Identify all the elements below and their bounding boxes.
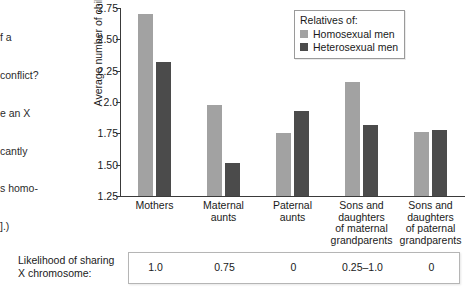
bottom-table-label-line2: X chromosome: <box>18 267 122 280</box>
x-axis-category-label: Mothers <box>120 200 189 212</box>
bottom-table-label: Likelihood of sharing X chromosome: <box>18 254 122 279</box>
x-axis-category-label: Sons anddaughtersof maternalgrandparents <box>327 200 396 246</box>
plot-area: 1.251.501.752.02.252.502.75 MothersMater… <box>120 8 465 196</box>
margin-text-line: ].) <box>0 220 58 233</box>
x-axis-category-label: Sons anddaughtersof paternalgrandparents <box>396 200 465 246</box>
bar <box>414 132 429 196</box>
bar-chart: Average number of children 1.251.501.752… <box>62 0 471 246</box>
bar <box>138 14 153 196</box>
y-axis-tick-mark <box>116 39 121 40</box>
y-axis-tick-mark <box>116 196 121 197</box>
y-axis-tick-label: 2.75 <box>68 2 118 14</box>
x-chromosome-likelihood-row: Likelihood of sharing X chromosome: 1.00… <box>0 252 471 288</box>
legend-item-label: Homosexual men <box>313 28 395 41</box>
margin-text-line: e an X <box>0 107 58 120</box>
y-axis-tick-label: 2.0 <box>68 96 118 108</box>
x-axis-category-label: Paternalaunts <box>258 200 327 223</box>
y-axis-tick-label: 1.50 <box>68 159 118 171</box>
y-axis-tick-label: 2.25 <box>68 65 118 77</box>
margin-text-line: f a <box>0 31 58 44</box>
x-axis-line <box>120 196 465 197</box>
margin-text-fragment: f a conflict? e an X cantly s homo- ].) <box>0 6 58 245</box>
x-axis-category-label: Maternalaunts <box>189 200 258 223</box>
bar <box>363 125 378 196</box>
legend-item-homosexual-men: Homosexual men <box>300 28 398 41</box>
y-axis-tick-mark <box>116 71 121 72</box>
bar <box>276 133 291 196</box>
margin-text-line: cantly <box>0 145 58 158</box>
legend-item-heterosexual-men: Heterosexual men <box>300 41 398 54</box>
chart-legend: Relatives of: Homosexual men Heterosexua… <box>294 10 405 59</box>
legend-item-label: Heterosexual men <box>313 41 398 54</box>
bottom-table-label-line1: Likelihood of sharing <box>18 254 122 267</box>
y-axis-tick-mark <box>116 102 121 103</box>
legend-swatch-icon <box>300 43 308 51</box>
bottom-table-cell: 0 <box>264 261 324 273</box>
bar <box>207 105 222 196</box>
y-axis-tick-mark <box>116 133 121 134</box>
y-axis-tick-mark <box>116 165 121 166</box>
legend-swatch-icon <box>300 30 308 38</box>
bar <box>156 62 171 196</box>
margin-text-line: s homo- <box>0 182 58 195</box>
bar <box>294 111 309 196</box>
y-axis-tick-label: 2.50 <box>68 33 118 45</box>
margin-text-line: conflict? <box>0 69 58 82</box>
bar <box>225 163 240 196</box>
bottom-table-cell: 0 <box>402 261 462 273</box>
bottom-table: 1.00.7500.25–1.00 <box>128 252 460 284</box>
y-axis-tick-mark <box>116 8 121 9</box>
bottom-table-cell: 1.0 <box>126 261 186 273</box>
y-axis-tick-label: 1.25 <box>68 190 118 202</box>
y-axis-tick-label: 1.75 <box>68 127 118 139</box>
bottom-table-cell: 0.25–1.0 <box>333 261 393 273</box>
bar <box>345 82 360 196</box>
legend-title: Relatives of: <box>300 14 398 27</box>
bottom-table-cell: 0.75 <box>195 261 255 273</box>
bar <box>432 130 447 196</box>
